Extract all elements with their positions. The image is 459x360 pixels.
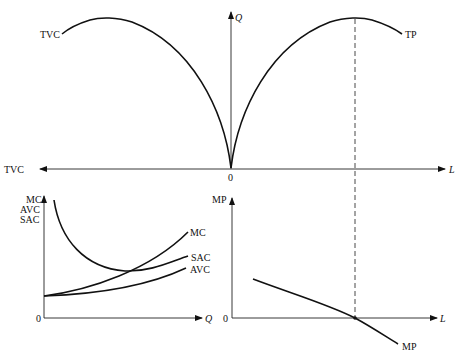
tvc-label: TVC — [40, 29, 60, 40]
upper-right-axis-label: L — [448, 164, 455, 175]
sac-curve — [54, 200, 188, 271]
mp-x-label: L — [439, 313, 446, 324]
avc-label: AVC — [190, 264, 210, 275]
upper-left-axis-label: TVC — [4, 164, 24, 175]
cost-x-label: Q — [205, 313, 213, 324]
mc-label: MC — [190, 227, 206, 238]
upper-panel: TVC L Q 0 TP TVC — [4, 12, 455, 318]
upper-origin-label: 0 — [228, 172, 233, 183]
tp-curve — [231, 18, 402, 168]
cost-y-label-sac: SAC — [20, 214, 40, 225]
sac-label: SAC — [191, 252, 211, 263]
tp-label: TP — [405, 29, 417, 40]
mp-origin-label: 0 — [223, 313, 228, 324]
mp-zero-point — [353, 316, 357, 320]
tvc-curve — [62, 18, 231, 168]
lower-right-panel: MP L 0 MP — [212, 194, 446, 352]
mp-label: MP — [402, 341, 417, 352]
cost-origin-label: 0 — [36, 313, 41, 324]
lower-left-panel: MC AVC SAC Q 0 SAC MC AVC — [20, 194, 213, 324]
mp-y-label: MP — [212, 194, 227, 205]
mp-curve — [253, 279, 398, 344]
production-cost-diagram: TVC L Q 0 TP TVC MC AVC SAC Q 0 SAC MC A… — [0, 0, 459, 360]
upper-vertical-axis-label: Q — [235, 12, 243, 23]
